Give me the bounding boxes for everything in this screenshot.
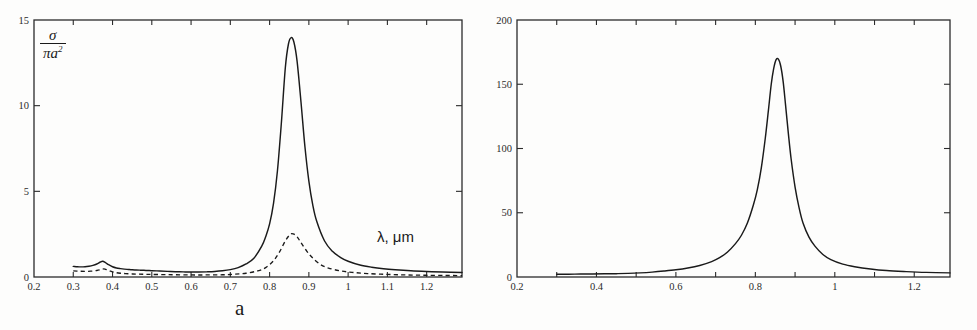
- sigma-symbol: σ: [40, 28, 66, 43]
- x-tick-label: 1.2: [420, 281, 433, 292]
- y-tick-label: 150: [496, 79, 512, 90]
- x-tick-label: 0.2: [27, 281, 40, 292]
- x-tick-label: 1.1: [381, 281, 394, 292]
- data-curve-solid: [557, 58, 950, 274]
- panel-b: 0.20.40.60.811.2050100150200 |F|2 λ, μm …: [490, 0, 977, 330]
- x-tick-label: 1: [346, 281, 351, 292]
- y-tick-label: 5: [24, 186, 29, 197]
- y-tick-label: 50: [502, 207, 513, 218]
- y-tick-label: 0: [507, 272, 512, 283]
- pi-a-squared-symbol: πa2: [40, 43, 66, 61]
- x-tick-label: 0.6: [669, 281, 682, 292]
- panel-a-letter: a: [235, 296, 244, 321]
- y-tick-label: 200: [496, 15, 512, 26]
- x-tick-label: 0.4: [590, 281, 604, 292]
- panel-a: 0.20.30.40.50.60.70.80.911.11.2051015 σ …: [0, 0, 490, 330]
- x-tick-label: 0.9: [302, 281, 315, 292]
- x-tick-label: 0.8: [263, 281, 276, 292]
- x-tick-label: 0.4: [106, 281, 120, 292]
- x-tick-label: 0.7: [224, 281, 237, 292]
- y-tick-label: 100: [496, 143, 512, 154]
- figure-container: 0.20.30.40.50.60.70.80.911.11.2051015 σ …: [0, 0, 977, 330]
- plot-frame: [517, 20, 950, 277]
- panel-b-plot: 0.20.40.60.811.2050100150200: [490, 0, 977, 330]
- y-tick-label: 10: [19, 100, 30, 111]
- panel-a-plot: 0.20.30.40.50.60.70.80.911.11.2051015: [0, 0, 490, 330]
- y-tick-label: 0: [24, 272, 29, 283]
- x-tick-label: 0.3: [67, 281, 80, 292]
- y-tick-label: 15: [19, 15, 30, 26]
- x-tick-label: 0.8: [749, 281, 762, 292]
- panel-a-x-axis-label: λ, μm: [377, 228, 414, 245]
- x-tick-label: 0.2: [510, 281, 523, 292]
- x-tick-label: 1: [832, 281, 837, 292]
- panel-a-y-axis-label: σ πa2: [40, 28, 66, 62]
- x-tick-label: 0.6: [185, 281, 198, 292]
- x-tick-label: 0.5: [145, 281, 158, 292]
- x-tick-label: 1.2: [908, 281, 921, 292]
